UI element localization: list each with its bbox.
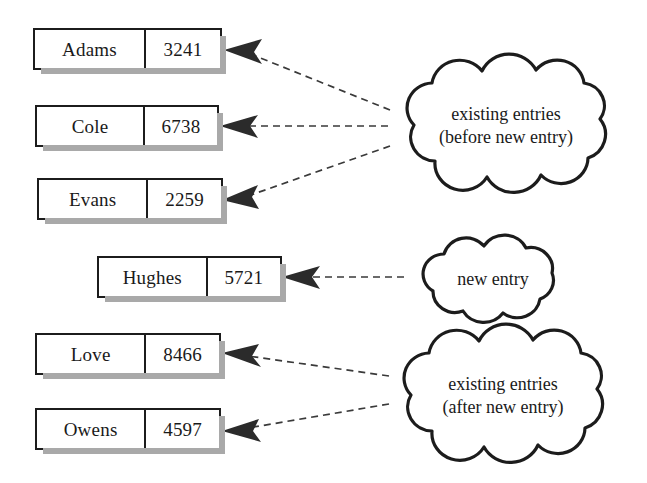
cloud-label-existing-before: existing entries (before new entry) (411, 103, 601, 148)
cloud-label-new-entry: new entry (433, 268, 553, 291)
connector-adams (224, 39, 390, 110)
record-box-evans[interactable]: Evans 2259 (37, 178, 223, 220)
connector-cole (220, 115, 388, 138)
connector-love (222, 344, 389, 376)
record-name-hughes: Hughes (99, 258, 208, 296)
record-name-adams: Adams (35, 30, 146, 68)
record-box-hughes[interactable]: Hughes 5721 (97, 256, 282, 298)
cloud-label-existing-after: existing entries (after new entry) (408, 373, 598, 418)
record-box-owens[interactable]: Owens 4597 (35, 408, 221, 450)
connector-evans (222, 146, 390, 209)
record-value-love: 8466 (146, 335, 219, 373)
record-box-adams[interactable]: Adams 3241 (33, 28, 222, 70)
record-name-cole: Cole (37, 107, 145, 145)
cloud-new-entry-shape (423, 235, 553, 322)
record-value-cole: 6738 (145, 107, 217, 145)
connector-hughes (282, 266, 404, 289)
record-box-cole[interactable]: Cole 6738 (35, 105, 219, 147)
record-name-love: Love (37, 335, 146, 373)
record-value-hughes: 5721 (208, 258, 280, 296)
record-name-owens: Owens (37, 410, 146, 448)
cloud-existing-before-shape (407, 54, 605, 192)
cloud-existing-after-shape (404, 324, 602, 462)
record-value-adams: 3241 (146, 30, 220, 68)
diagram-canvas: Adams 3241 Cole 6738 Evans 2259 Hughes 5… (0, 0, 647, 483)
record-value-owens: 4597 (146, 410, 219, 448)
record-value-evans: 2259 (148, 180, 221, 218)
connector-owens (222, 404, 389, 442)
record-name-evans: Evans (39, 180, 148, 218)
record-box-love[interactable]: Love 8466 (35, 333, 221, 375)
